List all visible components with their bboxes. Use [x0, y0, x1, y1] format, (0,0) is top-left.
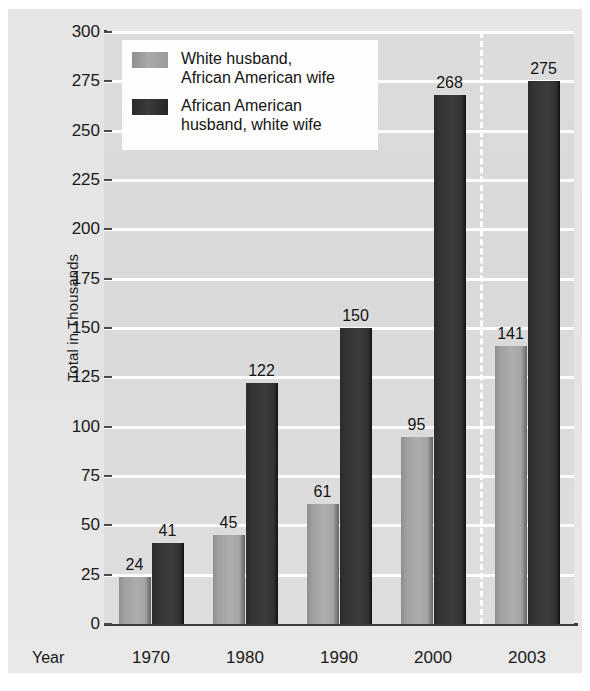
bar-value-label-1980-series-1: 122 — [248, 362, 275, 380]
bar-2003-series-0 — [495, 346, 526, 624]
legend-label-series-0: White husband, African American wife — [181, 49, 335, 87]
bar-2000-series-1 — [434, 95, 465, 624]
y-axis-tick-mark — [104, 327, 112, 329]
dashed-divider-line — [480, 32, 483, 624]
y-axis-tick-mark — [104, 130, 112, 132]
bar-1980-series-0 — [213, 535, 244, 624]
legend-label-series-0-line2: African American wife — [181, 69, 335, 86]
y-axis-tick-mark — [104, 80, 112, 82]
y-axis-tick-label: 275 — [44, 71, 100, 91]
gridline — [104, 31, 574, 34]
bar-1980-series-1 — [246, 383, 277, 624]
chart-canvas: 0255075100125150175200225250275300 24411… — [8, 9, 582, 673]
bar-value-label-2003-series-0: 141 — [497, 325, 524, 343]
y-axis-tick-mark — [104, 623, 112, 625]
bar-value-label-2000-series-0: 95 — [408, 416, 426, 434]
bar-value-label-1980-series-0: 45 — [220, 514, 238, 532]
bar-value-label-1970-series-0: 24 — [126, 556, 144, 574]
bar-1970-series-1 — [152, 543, 183, 624]
x-axis-tick-label-2003: 2003 — [508, 648, 546, 668]
legend-item-white-husband: White husband, African American wife — [132, 49, 372, 87]
x-axis-tick-label-2000: 2000 — [414, 648, 452, 668]
y-axis-tick-mark — [104, 524, 112, 526]
bar-value-label-1990-series-0: 61 — [314, 483, 332, 501]
y-axis-tick-label: 300 — [44, 22, 100, 42]
legend-item-african-american-husband: African American husband, white wife — [132, 96, 372, 134]
y-axis-tick-label: 50 — [44, 515, 100, 535]
bar-value-label-1970-series-1: 41 — [159, 522, 177, 540]
legend-label-series-1: African American husband, white wife — [181, 96, 322, 134]
bar-value-label-2000-series-1: 268 — [436, 74, 463, 92]
bar-1970-series-0 — [119, 577, 150, 624]
y-axis-tick-label: 25 — [44, 565, 100, 585]
legend-label-series-1-line2: husband, white wife — [181, 116, 322, 133]
bar-value-label-1990-series-1: 150 — [342, 307, 369, 325]
x-axis-tick-label-1990: 1990 — [320, 648, 358, 668]
y-axis-tick-label: 75 — [44, 466, 100, 486]
y-axis-tick-mark — [104, 574, 112, 576]
y-axis-tick-mark — [104, 426, 112, 428]
bar-value-label-2003-series-1: 275 — [530, 60, 557, 78]
legend-label-series-1-line1: African American — [181, 97, 302, 114]
bar-1990-series-0 — [307, 504, 338, 624]
bar-2000-series-0 — [401, 437, 432, 624]
chart-page: 0255075100125150175200225250275300 24411… — [0, 0, 590, 691]
gridline — [104, 179, 574, 182]
gridline — [104, 278, 574, 281]
y-axis-tick-mark — [104, 475, 112, 477]
x-axis-tick-label-1970: 1970 — [132, 648, 170, 668]
y-axis-tick-mark — [104, 31, 112, 33]
y-axis-tick-mark — [104, 376, 112, 378]
y-axis-tick-label: 100 — [44, 417, 100, 437]
chart-legend: White husband, African American wife Afr… — [122, 40, 378, 150]
y-axis-tick-mark — [104, 228, 112, 230]
legend-label-series-0-line1: White husband, — [181, 50, 292, 67]
y-axis-tick-label: 225 — [44, 170, 100, 190]
y-axis-tick-mark — [104, 278, 112, 280]
x-axis-title: Year — [32, 649, 64, 667]
gridline — [104, 228, 574, 231]
bar-1990-series-1 — [340, 328, 371, 624]
legend-swatch-icon-series-0 — [132, 52, 168, 68]
y-axis-tick-mark — [104, 179, 112, 181]
y-axis-tick-label: 250 — [44, 121, 100, 141]
y-axis-title: Total in Thousands — [64, 218, 81, 418]
legend-swatch-icon-series-1 — [132, 99, 168, 115]
x-axis-tick-label-1980: 1980 — [226, 648, 264, 668]
bar-2003-series-1 — [528, 81, 559, 624]
y-axis-tick-label: 0 — [44, 614, 100, 634]
